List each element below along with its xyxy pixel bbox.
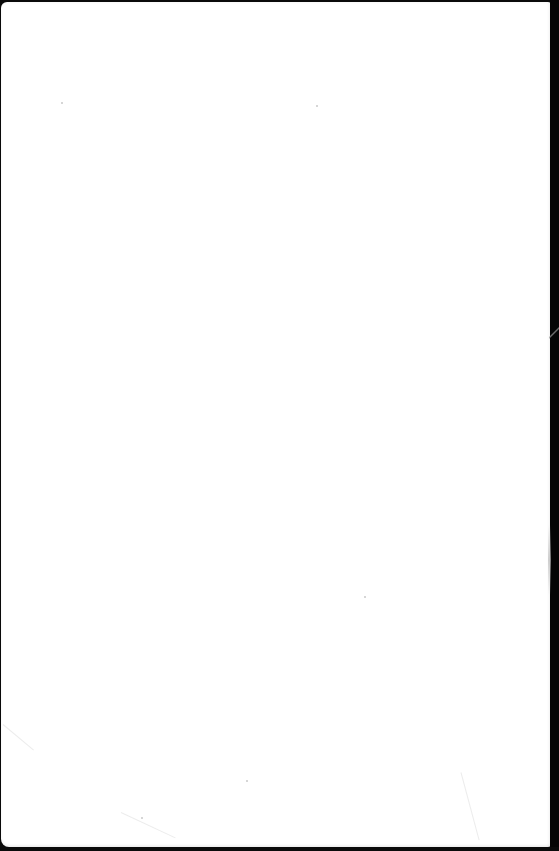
paper-speck <box>61 102 63 104</box>
blank-paper-sheet <box>1 2 551 847</box>
paper-crease <box>121 812 176 838</box>
dark-background-edge <box>0 847 559 851</box>
dark-background-edge <box>550 0 559 851</box>
paper-curl-highlight <box>548 525 551 595</box>
paper-crease <box>461 772 480 840</box>
paper-speck <box>316 105 318 107</box>
paper-speck <box>246 780 248 782</box>
paper-speck <box>364 596 366 598</box>
paper-crease <box>3 724 34 750</box>
paper-curl-highlight <box>549 318 559 348</box>
paper-speck <box>141 817 143 819</box>
